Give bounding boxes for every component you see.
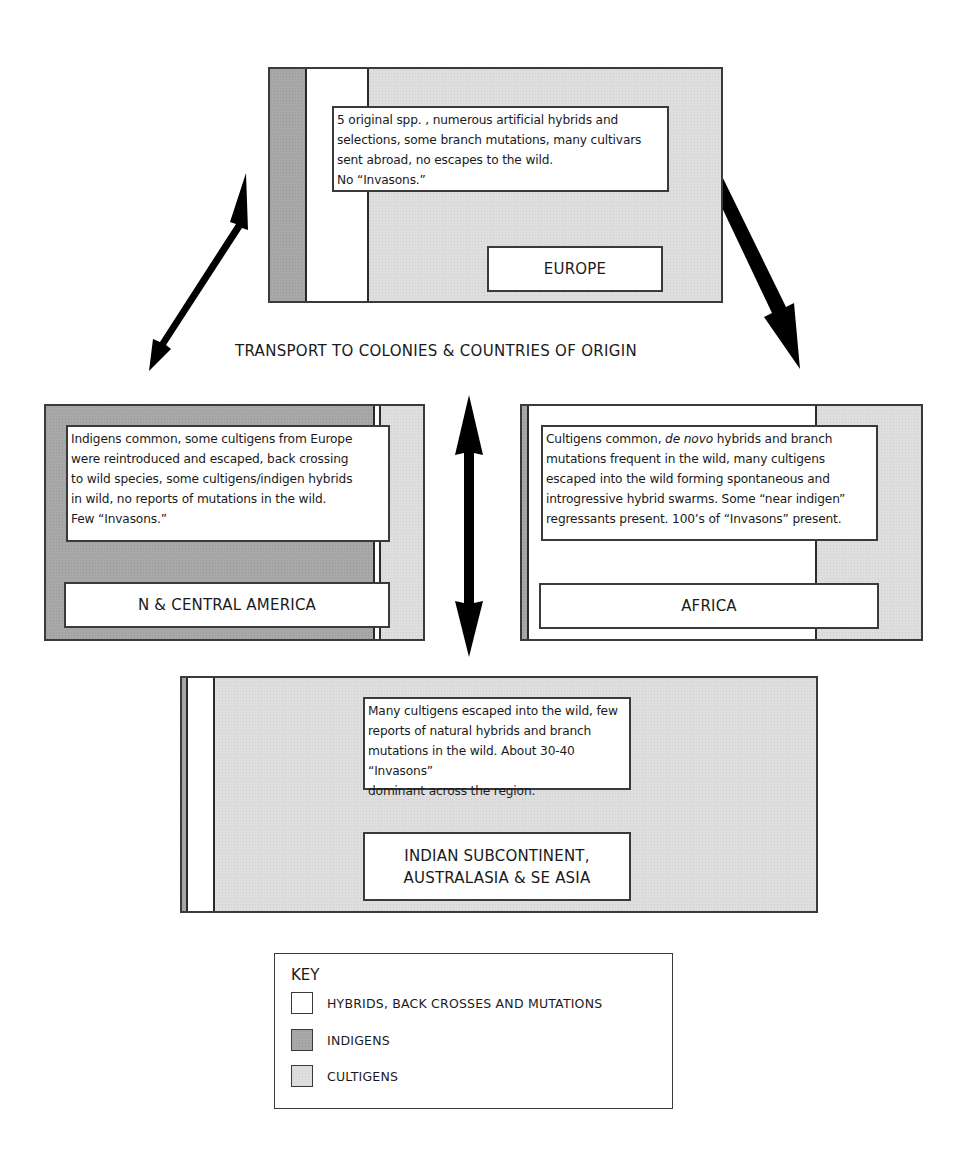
americas-description: Indigens common, some cultigens from Eur…: [66, 425, 390, 542]
desc-line: No “Invasons.”: [337, 170, 664, 190]
desc-line: in wild, no reports of mutations in the …: [71, 489, 385, 509]
desc-line: dominant across the region.: [368, 781, 626, 801]
desc-italic: de novo: [665, 432, 713, 446]
hybrid-strip: [186, 678, 215, 911]
desc-line: to wild species, some cultigens/indigen …: [71, 469, 385, 489]
region-name: N & CENTRAL AMERICA: [138, 594, 316, 616]
desc-line: were reintroduced and escaped, back cros…: [71, 449, 385, 469]
region-name-line1: INDIAN SUBCONTINENT,: [404, 845, 589, 867]
transport-label: TRANSPORT TO COLONIES & COUNTRIES OF ORI…: [235, 342, 637, 360]
desc-line: reports of natural hybrids and branch: [368, 721, 626, 741]
legend-title: KEY: [291, 966, 319, 984]
desc-line: introgressive hybrid swarms. Some “near …: [546, 489, 873, 509]
legend: KEY HYBRIDS, BACK CROSSES AND MUTATIONS …: [274, 953, 673, 1109]
desc-line: 5 original spp. , numerous artificial hy…: [337, 110, 664, 130]
africa-label: AFRICA: [539, 583, 879, 629]
desc-line: mutations in the wild. About 30-40 “Inva…: [368, 741, 626, 781]
desc-line: Cultigens common, de novo hybrids and br…: [546, 429, 873, 449]
asia-description: Many cultigens escaped into the wild, fe…: [363, 697, 631, 790]
desc-line: Many cultigens escaped into the wild, fe…: [368, 701, 626, 721]
legend-item-hybrids: HYBRIDS, BACK CROSSES AND MUTATIONS: [291, 992, 602, 1014]
legend-label: HYBRIDS, BACK CROSSES AND MUTATIONS: [327, 996, 602, 1011]
hybrid-swatch-icon: [291, 992, 313, 1014]
desc-line: regressants present. 100’s of “Invasons”…: [546, 509, 873, 529]
desc-line: escaped into the wild forming spontaneou…: [546, 469, 873, 489]
europe-label: EUROPE: [487, 246, 663, 292]
region-name: EUROPE: [544, 258, 606, 280]
desc-line: Indigens common, some cultigens from Eur…: [71, 429, 385, 449]
legend-label: CULTIGENS: [327, 1069, 398, 1084]
desc-text: hybrids and branch: [713, 432, 832, 446]
cultigen-swatch-icon: [291, 1065, 313, 1087]
americas-label: N & CENTRAL AMERICA: [64, 582, 390, 628]
legend-item-indigens: INDIGENS: [291, 1029, 390, 1051]
region-name-line2: AUSTRALASIA & SE ASIA: [404, 867, 591, 889]
desc-line: sent abroad, no escapes to the wild.: [337, 150, 664, 170]
europe-description: 5 original spp. , numerous artificial hy…: [332, 106, 669, 192]
desc-line: selections, some branch mutations, many …: [337, 130, 664, 150]
indigen-swatch-icon: [291, 1029, 313, 1051]
desc-text: Cultigens common,: [546, 432, 665, 446]
region-name: AFRICA: [681, 595, 737, 617]
africa-description: Cultigens common, de novo hybrids and br…: [541, 425, 878, 541]
legend-item-cultigens: CULTIGENS: [291, 1065, 398, 1087]
double-arrow-icon-europe-americas: [149, 173, 248, 371]
desc-line: mutations frequent in the wild, many cul…: [546, 449, 873, 469]
indigen-strip: [270, 69, 305, 301]
desc-line: Few “Invasons.”: [71, 509, 385, 529]
legend-label: INDIGENS: [327, 1033, 390, 1048]
double-arrow-icon-vertical: [455, 395, 483, 657]
asia-label: INDIAN SUBCONTINENT, AUSTRALASIA & SE AS…: [363, 832, 631, 901]
